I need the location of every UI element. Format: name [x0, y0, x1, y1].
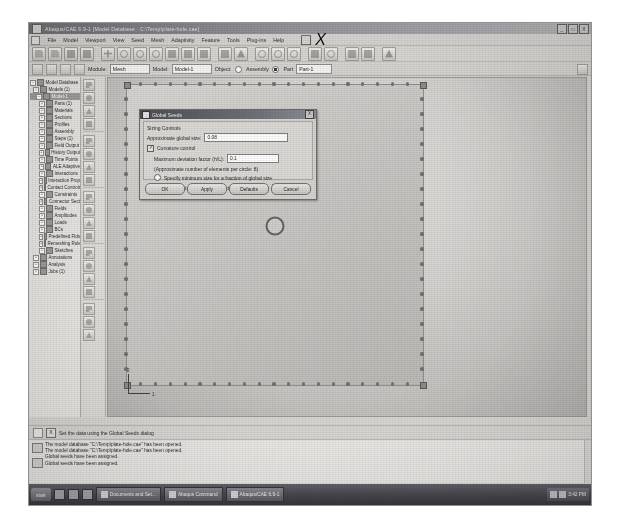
tree-item[interactable]: -Models (1) — [30, 86, 80, 93]
tree-item[interactable]: +Interactions — [30, 170, 80, 177]
context-overflow-icon[interactable] — [577, 64, 588, 75]
menu-item-mesh[interactable]: Mesh — [147, 37, 167, 43]
view-front-icon[interactable] — [271, 47, 285, 61]
media-icon[interactable] — [82, 489, 93, 500]
global-size-input[interactable]: 0.08 — [204, 133, 288, 142]
network-icon[interactable] — [559, 491, 566, 498]
tree-item[interactable]: +History Output — [30, 149, 80, 156]
tree-expander-icon[interactable]: - — [36, 94, 42, 100]
volume-icon[interactable] — [550, 491, 557, 498]
ok-button[interactable]: OK — [145, 183, 185, 195]
delete-edge-seeds-icon[interactable] — [83, 118, 95, 130]
tree-expander-icon[interactable]: + — [39, 206, 45, 212]
model-select[interactable]: Model-1 — [172, 64, 212, 74]
next-icon[interactable] — [46, 64, 57, 75]
viewport-icon[interactable] — [361, 47, 375, 61]
render-wireframe-icon[interactable] — [234, 47, 248, 61]
tree-item[interactable]: +BCs — [30, 226, 80, 233]
undo-icon[interactable] — [117, 47, 131, 61]
model-tree[interactable]: -Model Database-Models (1)-Model-1+Parts… — [29, 77, 81, 417]
query-icon[interactable] — [133, 47, 147, 61]
delete-mesh-icon[interactable] — [83, 191, 95, 203]
tree-item[interactable]: -Model Database — [30, 79, 80, 86]
minimize-button[interactable]: _ — [557, 24, 567, 34]
tree-expander-icon[interactable]: + — [39, 227, 45, 233]
view-iso-icon[interactable] — [287, 47, 301, 61]
plot-contours-icon[interactable] — [345, 47, 359, 61]
assign-element-type-icon[interactable] — [83, 148, 95, 160]
min-size-radio[interactable] — [154, 174, 161, 181]
tree-expander-icon[interactable]: + — [33, 269, 39, 275]
tree-item[interactable]: +ALE Adaptive — [30, 163, 80, 170]
menu-item-tools[interactable]: Tools — [224, 37, 244, 43]
tree-expander-icon[interactable]: + — [33, 262, 39, 268]
tree-expander-icon[interactable]: + — [39, 108, 45, 114]
cancel-button[interactable]: Cancel — [271, 183, 311, 195]
assign-mesh-controls-icon[interactable] — [83, 135, 95, 147]
module-select[interactable]: Mesh — [110, 64, 150, 74]
part-select[interactable]: Part-1 — [296, 64, 332, 74]
tree-expander-icon[interactable]: + — [39, 234, 43, 240]
tree-expander-icon[interactable]: + — [39, 178, 43, 184]
virtual-topology-icon[interactable] — [83, 329, 95, 341]
prompt-cancel-button[interactable]: X — [46, 428, 56, 438]
tree-item[interactable]: +Predefined Flds — [30, 233, 80, 240]
tree-item[interactable]: +Remeshing Rules — [30, 240, 80, 247]
menu-item-adaptivity[interactable]: Adaptivity — [168, 37, 198, 43]
tree-expander-icon[interactable]: + — [39, 241, 43, 247]
seed-part-icon[interactable] — [83, 79, 95, 91]
menu-item-feature[interactable]: Feature — [198, 37, 224, 43]
datum-plane-icon[interactable] — [83, 303, 95, 315]
tree-expander-icon[interactable]: + — [39, 136, 45, 142]
datum-point-icon[interactable] — [83, 316, 95, 328]
tree-expander-icon[interactable]: - — [33, 87, 39, 93]
object-assembly-radio[interactable] — [235, 66, 242, 73]
partition-face-icon[interactable] — [83, 286, 95, 298]
menu-item-seed[interactable]: Seed — [128, 37, 148, 43]
taskbar-item-abaqus-cae[interactable]: Abaqus/CAE 6.9-1 — [226, 487, 285, 502]
tree-expander-icon[interactable]: + — [39, 199, 43, 205]
verify-mesh-icon[interactable] — [83, 204, 95, 216]
tree-expander-icon[interactable]: - — [30, 80, 36, 86]
magnify-icon[interactable] — [149, 47, 163, 61]
tree-expander-icon[interactable]: + — [33, 255, 39, 261]
new-model-database-icon[interactable] — [32, 47, 46, 61]
rotate-view-icon[interactable] — [255, 47, 269, 61]
tree-item[interactable]: +Fields — [30, 205, 80, 212]
zoom-in-icon[interactable] — [101, 47, 115, 61]
print-icon[interactable] — [80, 47, 94, 61]
command-line-icon[interactable] — [32, 458, 43, 468]
tree-item[interactable]: +Constraints — [30, 191, 80, 198]
defaults-button[interactable]: Defaults — [229, 183, 269, 195]
pan-icon[interactable] — [181, 47, 195, 61]
pick-icon[interactable] — [60, 64, 71, 75]
maximize-button[interactable]: □ — [568, 24, 578, 34]
tree-item[interactable]: +Analysis — [30, 261, 80, 268]
tree-item[interactable]: +Amplitudes — [30, 212, 80, 219]
circular-hole[interactable] — [266, 217, 285, 236]
global-seeds-dialog[interactable]: Global Seeds X Sizing Controls Approxima… — [139, 109, 317, 200]
tree-item[interactable]: +Sketches — [30, 247, 80, 254]
tree-item[interactable]: +Annotations — [30, 254, 80, 261]
edit-mesh-icon[interactable] — [83, 230, 95, 242]
menu-item-model[interactable]: Model — [60, 37, 82, 43]
taskbar-item-documents[interactable]: Documents and Set... — [96, 487, 161, 502]
remesh-rule-icon[interactable] — [83, 247, 95, 259]
menu-item-plugins[interactable]: Plug-ins — [243, 37, 269, 43]
browser-icon[interactable] — [68, 489, 79, 500]
tree-expander-icon[interactable]: + — [39, 248, 45, 254]
tree-item[interactable]: +Loads — [30, 219, 80, 226]
clock-icon[interactable] — [324, 47, 338, 61]
tree-item[interactable]: +Assembly — [30, 128, 80, 135]
bulb-icon[interactable] — [74, 64, 85, 75]
message-area-icon[interactable] — [32, 443, 43, 453]
tree-item[interactable]: +Profiles — [30, 121, 80, 128]
tree-expander-icon[interactable]: + — [39, 143, 45, 149]
deviation-factor-input[interactable]: 0.1 — [227, 154, 279, 163]
tree-item[interactable]: +Interaction Prop — [30, 177, 80, 184]
previous-icon[interactable] — [32, 64, 43, 75]
tree-expander-icon[interactable]: + — [39, 157, 45, 163]
mesh-region-icon[interactable] — [83, 174, 95, 186]
menu-item-view[interactable]: View — [109, 37, 128, 43]
apply-button[interactable]: Apply — [187, 183, 227, 195]
